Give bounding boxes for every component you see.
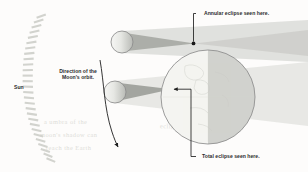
moon-lower: [104, 81, 126, 103]
earth: [161, 50, 255, 144]
eclipse-diagram: a umbra of the moon's shadow can reach t…: [0, 0, 308, 172]
orbit-direction-arrow: [100, 60, 118, 147]
sun-ray-arc: [23, 14, 56, 162]
annular-eclipse-point: [192, 42, 196, 46]
total-eclipse-label: Total eclipse seen here.: [202, 153, 260, 159]
sun-label: Sun: [14, 84, 24, 90]
annular-eclipse-label: Annular eclipse seen here.: [204, 10, 269, 16]
diagram-canvas: [0, 0, 308, 172]
moon-upper: [111, 31, 133, 53]
orbit-direction-label: Direction of the Moon's orbit.: [58, 68, 98, 80]
